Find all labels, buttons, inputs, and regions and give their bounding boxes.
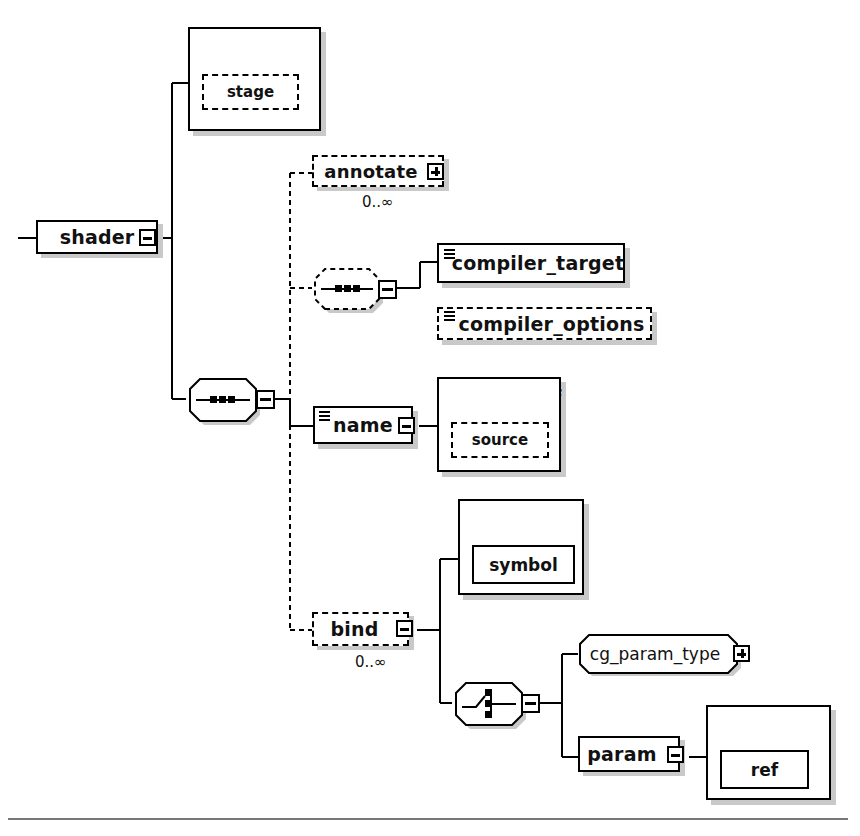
source-label: source: [472, 431, 528, 449]
xsd-diagram-canvas: shader attributes stage annotate 0..∞: [0, 0, 860, 836]
compiler-target-content-icon: [444, 249, 455, 259]
param-label: param: [587, 743, 656, 765]
compiler-sequence-toggle[interactable]: [378, 280, 397, 299]
bind-choice-toggle[interactable]: [521, 694, 540, 713]
param-collapse-toggle[interactable]: [667, 746, 684, 763]
node-compiler-target[interactable]: compiler_target: [437, 243, 625, 283]
stage-label: stage: [227, 83, 274, 101]
compositor-main-sequence[interactable]: [186, 376, 260, 424]
shader-collapse-toggle[interactable]: [139, 229, 156, 246]
symbol-label: symbol: [489, 555, 558, 575]
main-sequence-toggle[interactable]: [256, 390, 275, 409]
bind-label: bind: [330, 618, 378, 640]
node-cg-param-type[interactable]: cg_param_type: [578, 632, 750, 676]
attribute-symbol[interactable]: symbol: [472, 545, 575, 584]
page-divider-rule: [8, 818, 848, 820]
compiler-options-content-icon: [444, 311, 455, 321]
attribute-stage[interactable]: stage: [202, 74, 299, 110]
ref-label: ref: [751, 760, 778, 780]
compositor-compiler-sequence[interactable]: [312, 265, 382, 311]
node-param[interactable]: param: [578, 736, 680, 772]
attribute-source[interactable]: source: [451, 422, 549, 458]
bind-collapse-toggle[interactable]: [396, 620, 413, 637]
attribute-ref[interactable]: ref: [720, 750, 809, 789]
annotate-cardinality: 0..∞: [362, 193, 394, 211]
node-bind[interactable]: bind: [312, 612, 409, 646]
cg-param-type-label: cg_param_type: [590, 644, 720, 664]
node-annotate[interactable]: annotate: [312, 155, 444, 187]
compiler-target-label: compiler_target: [452, 252, 624, 274]
shader-label: shader: [60, 226, 135, 248]
bind-cardinality: 0..∞: [355, 653, 387, 671]
name-content-icon: [319, 411, 330, 421]
node-compiler-options[interactable]: compiler_options: [437, 307, 652, 340]
annotate-expand-toggle[interactable]: [427, 163, 444, 180]
name-collapse-toggle[interactable]: [398, 417, 415, 434]
annotate-label: annotate: [324, 161, 417, 182]
cg-param-type-expand-toggle[interactable]: [733, 645, 750, 662]
compositor-bind-choice[interactable]: [452, 680, 526, 728]
name-label: name: [333, 414, 393, 436]
compiler-options-label: compiler_options: [459, 313, 645, 335]
